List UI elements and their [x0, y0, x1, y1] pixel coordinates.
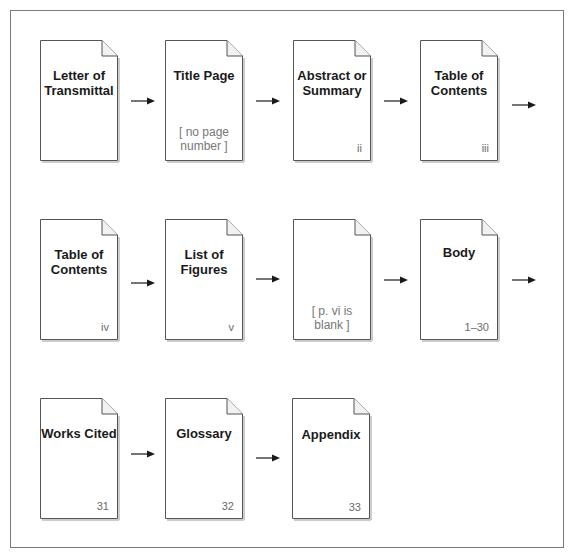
- page-glossary: Glossary 32: [165, 398, 243, 519]
- arrow-right-icon: [131, 97, 155, 105]
- arrow-right-icon: [512, 101, 536, 109]
- page-number: iv: [101, 321, 109, 333]
- page-number: 33: [349, 501, 361, 513]
- page-number: 1–30: [465, 321, 489, 333]
- arrow-right-icon: [131, 450, 155, 458]
- page-number: v: [229, 321, 235, 333]
- page-title: Abstract or Summary: [297, 68, 367, 98]
- document-page-icon: [40, 40, 118, 161]
- page-title: Table of Contents: [44, 247, 114, 277]
- page-works-cited: Works Cited 31: [40, 398, 118, 519]
- arrow-right-icon: [384, 276, 408, 284]
- page-title: List of Figures: [169, 247, 239, 277]
- page-abstract-or-summary: Abstract or Summary ii: [293, 40, 371, 161]
- page-title: Body: [424, 245, 494, 260]
- page-blank-vi: [ p. vi is blank ]: [293, 219, 371, 340]
- page-table-of-contents-iii: Table of Contents iii: [420, 40, 498, 161]
- page-title: Title Page: [169, 68, 239, 83]
- arrow-right-icon: [256, 454, 280, 462]
- page-title: Appendix: [296, 427, 366, 442]
- page-title: Works Cited: [40, 426, 118, 441]
- page-body: Body 1–30: [420, 219, 498, 340]
- page-number: 31: [97, 500, 109, 512]
- arrow-right-icon: [384, 97, 408, 105]
- arrow-right-icon: [256, 275, 280, 283]
- arrow-right-icon: [131, 279, 155, 287]
- page-title: Glossary: [169, 426, 239, 441]
- page-appendix: Appendix 33: [292, 398, 370, 519]
- page-title-page: Title Page [ no page number ]: [165, 40, 243, 161]
- page-number: ii: [357, 142, 362, 154]
- page-note: [ no page number ]: [165, 125, 243, 153]
- page-number: 32: [222, 500, 234, 512]
- page-letter-of-transmittal: Letter of Transmittal: [40, 40, 118, 161]
- arrow-right-icon: [256, 97, 280, 105]
- page-title: Letter of Transmittal: [44, 68, 114, 98]
- page-number: iii: [482, 142, 489, 154]
- arrow-right-icon: [512, 276, 536, 284]
- page-table-of-contents-iv: Table of Contents iv: [40, 219, 118, 340]
- page-list-of-figures: List of Figures v: [165, 219, 243, 340]
- page-note: [ p. vi is blank ]: [293, 304, 371, 332]
- page-title: Table of Contents: [424, 68, 494, 98]
